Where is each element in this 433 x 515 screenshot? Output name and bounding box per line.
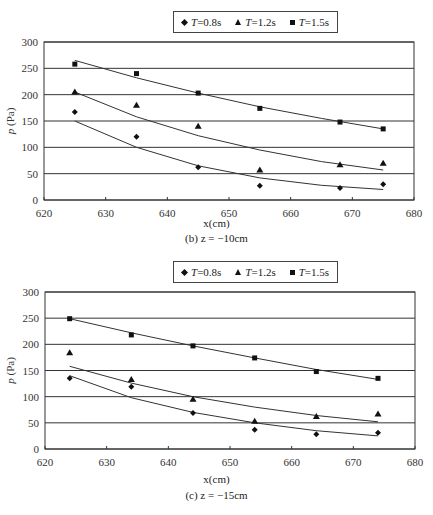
plot-area: 050100150200250300620630640650660670680p… — [0, 0, 433, 515]
y-tick-label: 50 — [28, 417, 40, 429]
x-tick-label: 680 — [407, 456, 424, 468]
square-marker-icon — [67, 316, 72, 321]
triangle-marker-icon — [375, 410, 382, 416]
x-tick-label: 640 — [160, 456, 177, 468]
diamond-marker-icon — [313, 431, 319, 437]
trendline — [70, 366, 378, 422]
square-marker-icon — [314, 369, 319, 374]
square-marker-icon — [376, 376, 381, 381]
y-tick-label: 200 — [23, 338, 40, 350]
chart-caption: (c) z = −15cm — [0, 489, 433, 501]
x-axis-label: x(cm) — [0, 473, 433, 485]
y-tick-label: 0 — [34, 443, 40, 455]
y-tick-label: 100 — [23, 391, 40, 403]
x-tick-label: 670 — [345, 456, 362, 468]
y-tick-label: 150 — [23, 365, 40, 377]
x-tick-label: 620 — [37, 456, 54, 468]
diamond-marker-icon — [375, 430, 381, 436]
square-marker-icon — [252, 355, 257, 360]
diamond-marker-icon — [128, 384, 134, 390]
triangle-marker-icon — [251, 418, 258, 424]
x-tick-label: 660 — [283, 456, 300, 468]
diamond-marker-icon — [190, 410, 196, 416]
y-tick-label: 300 — [23, 286, 40, 298]
triangle-marker-icon — [128, 376, 135, 382]
y-axis-label: p (Pa) — [4, 357, 17, 385]
trendline — [70, 376, 378, 436]
triangle-marker-icon — [66, 349, 73, 355]
x-tick-label: 630 — [98, 456, 115, 468]
diamond-marker-icon — [252, 427, 258, 433]
chart-c: T=0.8s T=1.2s T=1.5s 0501001502002503006… — [0, 0, 433, 515]
square-marker-icon — [191, 343, 196, 348]
y-tick-label: 250 — [23, 312, 40, 324]
x-tick-label: 650 — [222, 456, 239, 468]
square-marker-icon — [129, 332, 134, 337]
